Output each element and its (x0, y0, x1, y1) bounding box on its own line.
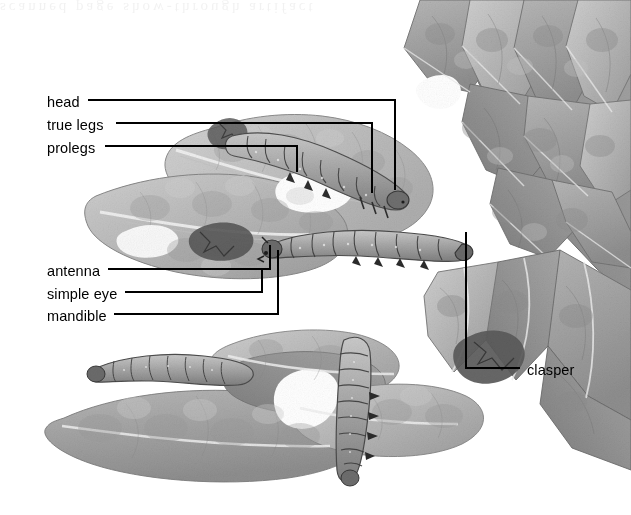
label-mandible: mandible (47, 309, 107, 324)
label-head: head (47, 95, 80, 110)
label-true-legs: true legs (47, 118, 104, 133)
label-clasper: clasper (527, 363, 574, 378)
label-layer: head true legs prolegs antenna simple ey… (0, 0, 631, 515)
illustration-plate: scanned page show-through artifact (0, 0, 631, 515)
label-prolegs: prolegs (47, 141, 95, 156)
label-antenna: antenna (47, 264, 100, 279)
label-simple-eye: simple eye (47, 287, 117, 302)
